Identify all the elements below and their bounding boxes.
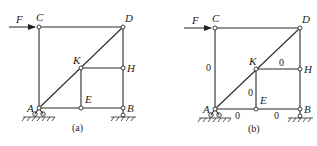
node-d — [298, 26, 302, 30]
label-k: K — [72, 54, 81, 66]
caption-b: (b) — [248, 123, 260, 135]
force-label: F — [191, 14, 199, 26]
truss-figure: F — [0, 0, 317, 146]
label-c: C — [212, 12, 220, 24]
node-h — [298, 67, 302, 71]
zero-label-ac: 0 — [206, 62, 211, 73]
zero-label-ae: 0 — [235, 110, 240, 121]
node-k — [254, 67, 258, 71]
zero-label-eb: 0 — [274, 110, 279, 121]
node-d — [121, 25, 125, 29]
node-c — [37, 25, 41, 29]
label-c: C — [36, 11, 44, 23]
label-h: H — [126, 62, 136, 74]
node-e — [79, 106, 83, 110]
force-label: F — [15, 13, 23, 25]
node-b — [298, 107, 302, 111]
node-k — [79, 66, 83, 70]
label-d: D — [124, 12, 133, 24]
caption-a: (a) — [72, 122, 83, 134]
zero-label-kh: 0 — [279, 57, 284, 68]
label-d: D — [301, 13, 310, 25]
label-h: H — [303, 63, 313, 75]
panel-a: F — [9, 11, 136, 134]
zero-label-ke: 0 — [248, 87, 253, 98]
label-e: E — [259, 94, 267, 106]
label-a: A — [26, 102, 34, 114]
label-b: B — [127, 102, 134, 114]
label-k: K — [248, 55, 257, 67]
node-h — [121, 66, 125, 70]
node-a — [213, 107, 217, 111]
node-b — [121, 106, 125, 110]
panel-b: F — [184, 12, 313, 135]
label-b: B — [304, 103, 311, 115]
node-a — [37, 106, 41, 110]
node-c — [213, 26, 217, 30]
node-e — [254, 107, 258, 111]
label-a: A — [202, 103, 210, 115]
label-e: E — [84, 93, 92, 105]
